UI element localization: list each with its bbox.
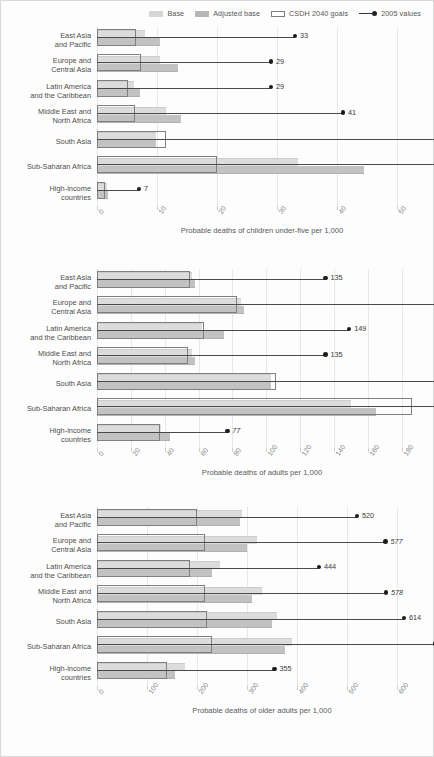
category-label: Latin America and the Caribbean [0, 82, 91, 100]
value-leader-line [97, 670, 275, 671]
value-leader-line [97, 62, 271, 63]
value-label: 149 [354, 324, 366, 333]
base-swatch-icon [149, 11, 163, 17]
category-label: High-income countries [0, 184, 91, 202]
adjusted-base-swatch-icon [195, 11, 209, 17]
category-label: Middle East and North Africa [0, 587, 91, 605]
category-label: High-income countries [0, 664, 91, 682]
axis-tick-label: 60 [199, 446, 209, 456]
value-leader-line [97, 139, 434, 140]
chart-row: Sub-Saharan Africa146 [97, 155, 427, 181]
category-label: Latin America and the Caribbean [0, 562, 91, 580]
value-label: 520 [362, 511, 374, 520]
legend-item-2005-values: 2005 values [359, 9, 421, 18]
x-axis-title-under-five: Probable deaths of children under-five p… [97, 226, 427, 235]
value-leader-line [97, 644, 434, 645]
axis-tick-label: 50 [397, 204, 407, 214]
chart-row: High-income countries77 [97, 422, 427, 448]
chart-row: Sub-Saharan Africa388 [97, 397, 427, 423]
value-marker-dot [347, 327, 352, 332]
chart-row: Middle East and North Africa578 [97, 584, 427, 610]
x-axis-title-adults: Probable deaths of adults per 1,000 [97, 468, 427, 477]
value-leader-line [97, 88, 271, 89]
chart-row: East Asia and Pacific135 [97, 269, 427, 295]
legend-item-csdh-goals: CSDH 2040 goals [271, 9, 348, 18]
value-marker-dot [269, 59, 274, 64]
value-leader-line [97, 593, 386, 594]
value-label: 135 [330, 350, 342, 359]
chart-row: Latin America and the Caribbean149 [97, 320, 427, 346]
chart-row: Europe and Central Asia213 [97, 295, 427, 321]
value-leader-line [97, 279, 325, 280]
legend-item-adjusted-base: Adjusted base [195, 9, 260, 18]
category-label: Latin America and the Caribbean [0, 324, 91, 342]
category-label: High-income countries [0, 426, 91, 444]
axis-tick-label: 0 [97, 687, 105, 694]
value-label: 7 [144, 184, 148, 193]
axis-tick-label: 10 [157, 204, 167, 214]
value-label: 614 [409, 613, 421, 622]
value-label: 355 [280, 664, 292, 673]
category-label: South Asia [0, 379, 91, 388]
value-leader-line [97, 113, 343, 114]
chart-row: Middle East and North Africa135 [97, 346, 427, 372]
axis-tick-label: 0 [97, 207, 105, 214]
chart-adults: East Asia and Pacific135Europe and Centr… [1, 269, 434, 482]
value-marker-dot [384, 590, 389, 595]
chart-row: Latin America and the Caribbean444 [97, 558, 427, 584]
x-axis-title-older-adults: Probable deaths of older adults per 1,00… [97, 706, 427, 715]
axis-tick-label: 30 [277, 204, 287, 214]
chart-row: South Asia614 [97, 609, 427, 635]
chart-row: Sub-Saharan Africa677 [97, 635, 427, 661]
category-label: Middle East and North Africa [0, 107, 91, 125]
value-marker-dot [323, 352, 328, 357]
chart-row: Europe and Central Asia577 [97, 533, 427, 559]
chart-under-five: East Asia and Pacific33Europe and Centra… [1, 27, 434, 240]
value-leader-line [97, 355, 325, 356]
value-label: 33 [300, 31, 308, 40]
legend-label-adjusted-base: Adjusted base [213, 9, 260, 18]
value-marker-dot [317, 565, 322, 570]
axis-tick-label: 40 [165, 446, 175, 456]
value-leader-line [97, 406, 434, 407]
chart-row: South Asia86 [97, 129, 427, 155]
category-label: East Asia and Pacific [0, 31, 91, 49]
x-axis-adults: Probable deaths of adults per 1,000 0204… [97, 448, 427, 482]
plot-rows-adults: East Asia and Pacific135Europe and Centr… [97, 269, 427, 448]
value-marker-dot [355, 514, 360, 519]
csdh-goal-swatch-icon [271, 11, 285, 17]
legend-label-2005-values: 2005 values [381, 9, 421, 18]
chart-row: East Asia and Pacific33 [97, 27, 427, 53]
axis-tick-label: 80 [232, 446, 242, 456]
category-label: Sub-Saharan Africa [0, 405, 91, 414]
chart-row: Latin America and the Caribbean29 [97, 78, 427, 104]
x-axis-under-five: Probable deaths of children under-five p… [97, 206, 427, 240]
value-leader-line [97, 304, 434, 305]
category-label: Europe and Central Asia [0, 536, 91, 554]
category-label: Middle East and North Africa [0, 349, 91, 367]
value-leader-line [97, 164, 434, 165]
axis-tick-label: 40 [337, 204, 347, 214]
value-label: 135 [330, 273, 342, 282]
legend-item-base: Base [149, 9, 184, 18]
legend-label-base: Base [167, 9, 184, 18]
value-label: 578 [391, 588, 403, 597]
chart-row: East Asia and Pacific520 [97, 507, 427, 533]
value-marker-dot [225, 429, 230, 434]
value-leader-line [97, 432, 227, 433]
category-label: East Asia and Pacific [0, 511, 91, 529]
category-label: East Asia and Pacific [0, 273, 91, 291]
value-leader-line [97, 37, 295, 38]
category-label: Europe and Central Asia [0, 298, 91, 316]
category-label: Sub-Saharan Africa [0, 163, 91, 172]
category-label: Europe and Central Asia [0, 56, 91, 74]
axis-tick-label: 0 [97, 449, 105, 456]
chart-row: South Asia217 [97, 371, 427, 397]
plot-rows-older-adults: East Asia and Pacific520Europe and Centr… [97, 507, 427, 686]
chart-row: Europe and Central Asia29 [97, 53, 427, 79]
axis-tick-label: 20 [217, 204, 227, 214]
value-marker-dot [269, 85, 274, 90]
axis-tick-label: 20 [131, 446, 141, 456]
value-label: 29 [276, 57, 284, 66]
value-leader-line [97, 568, 319, 569]
